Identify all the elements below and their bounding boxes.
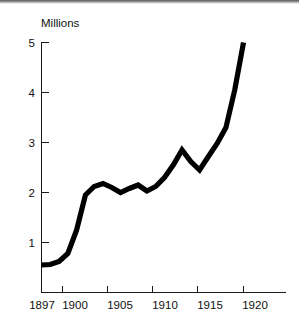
x-tick-label-1900: 1900 [62,299,88,311]
line-chart: 5 4 3 2 1 Millions 1897 1900 1905 1910 1… [0,0,299,321]
x-tick-label-1905: 1905 [107,299,133,311]
data-series-line [42,43,244,266]
y-tick-label-1: 1 [29,237,35,249]
y-tick-label-3: 3 [29,137,35,149]
x-tick-label-1915: 1915 [197,299,223,311]
x-tick-label-1897: 1897 [29,299,55,311]
y-tick-label-2: 2 [29,187,35,199]
chart-container: 5 4 3 2 1 Millions 1897 1900 1905 1910 1… [0,0,299,321]
y-tick-label-5: 5 [29,37,35,49]
x-tick-label-1910: 1910 [152,299,178,311]
x-tick-label-1920: 1920 [242,299,268,311]
y-axis-title: Millions [41,17,80,29]
y-tick-label-4: 4 [29,87,36,99]
